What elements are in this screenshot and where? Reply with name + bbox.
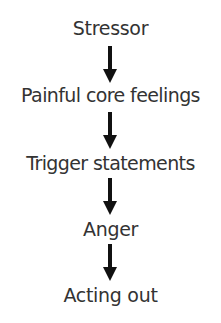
down-arrow-icon bbox=[103, 46, 117, 83]
down-arrow-icon bbox=[103, 112, 117, 149]
node-anger: Anger bbox=[0, 218, 221, 240]
node-acting-out: Acting out bbox=[0, 284, 221, 306]
node-trigger-statements: Trigger statements bbox=[0, 152, 221, 174]
down-arrow-icon bbox=[103, 178, 117, 215]
node-stressor: Stressor bbox=[0, 17, 221, 39]
down-arrow-icon bbox=[103, 244, 117, 281]
node-painful-core-feelings: Painful core feelings bbox=[0, 84, 221, 106]
